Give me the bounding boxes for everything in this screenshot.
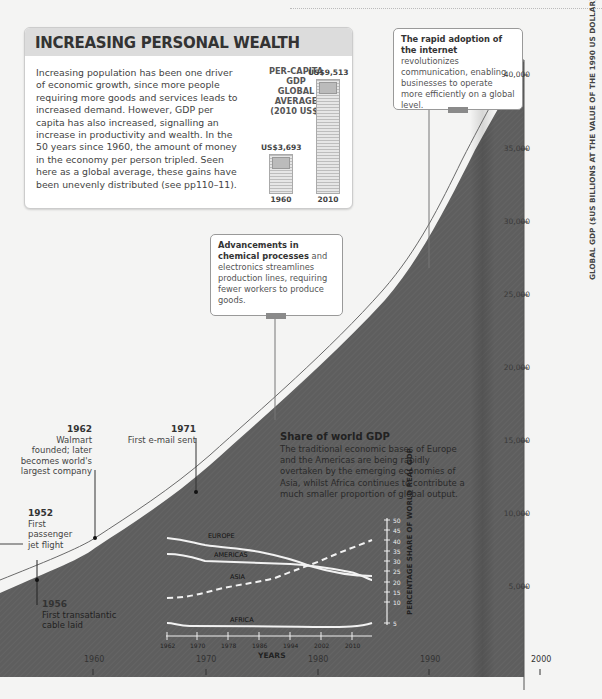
share-title: Share of world GDP: [280, 431, 390, 442]
share-y-title: PERCENTAGE SHARE OF WORLD REAL GDP: [406, 515, 414, 615]
event-year: 1971: [171, 424, 196, 434]
event-1952: 1952First passenger jet flight: [28, 508, 70, 550]
series-label-africa: AFRICA: [230, 616, 254, 624]
bar-1960: [269, 154, 293, 194]
panel-title: INCREASING PERSONAL WEALTH: [25, 28, 352, 56]
bar-1960-value: US$3,693: [261, 143, 301, 152]
series-label-americas: AMERICAS: [214, 551, 248, 559]
callout-bold: Advancements in chemical processes: [218, 240, 309, 261]
bar-2010-value: US$9,513: [308, 68, 348, 77]
x-tick: 2000: [531, 655, 551, 664]
internet-callout: The rapid adoption of the internet revol…: [393, 28, 523, 110]
y-tick: 40,000: [504, 70, 530, 79]
bar-2010: [316, 79, 340, 194]
y-tick: 25,000: [504, 290, 530, 299]
x-tick: 1980: [308, 655, 328, 664]
event-1971: 1971First e-mail sent: [120, 424, 196, 445]
event-text: First transatlantic cable laid: [42, 610, 116, 631]
y-tick: 30,000: [504, 217, 530, 226]
banknote-icon: [319, 82, 337, 94]
y-tick: 5,000: [509, 582, 530, 591]
event-year: 1956: [42, 599, 67, 609]
series-label-asia: ASIA: [230, 573, 245, 581]
event-text: Walmart founded; later becomes world's l…: [21, 435, 92, 477]
y-axis-title: GLOBAL GDP ($US BILLIONS AT THE VALUE OF…: [588, 0, 597, 280]
bar-2010-year: 2010: [308, 195, 348, 204]
y-tick: 35,000: [504, 144, 530, 153]
y-tick: 20,000: [504, 363, 530, 372]
event-text: First e-mail sent: [128, 435, 196, 445]
y-tick: 15,000: [504, 436, 530, 445]
callout-bold: The rapid adoption of the internet: [401, 34, 502, 55]
share-body: The traditional economic bases of Europe…: [280, 444, 470, 500]
event-year: 1952: [28, 508, 53, 518]
callout-tab: [448, 107, 468, 113]
share-x-title: YEARS: [258, 651, 286, 660]
series-label-europe: EUROPE: [208, 532, 235, 540]
personal-wealth-panel: INCREASING PERSONAL WEALTH Increasing po…: [24, 27, 353, 209]
event-text: First passenger jet flight: [28, 519, 72, 550]
callout-tab: [266, 313, 286, 319]
banknote-icon: [272, 157, 290, 169]
x-tick: 1960: [84, 655, 104, 664]
y-tick: 10,000: [504, 509, 530, 518]
event-year: 1962: [67, 424, 92, 434]
x-tick: 1990: [420, 655, 440, 664]
chemical-callout: Advancements in chemical processes and e…: [210, 234, 343, 316]
panel-body: Increasing population has been one drive…: [36, 67, 241, 191]
event-1962: 1962Walmart founded; later becomes world…: [20, 424, 92, 477]
share-y-ticks: 5045403530252015105: [393, 516, 401, 629]
x-tick: 1970: [196, 655, 216, 664]
event-1956: 1956First transatlantic cable laid: [42, 599, 122, 631]
callout-text: revolutionizes communication, enabling b…: [401, 56, 515, 110]
bar-1960-year: 1960: [261, 195, 301, 204]
